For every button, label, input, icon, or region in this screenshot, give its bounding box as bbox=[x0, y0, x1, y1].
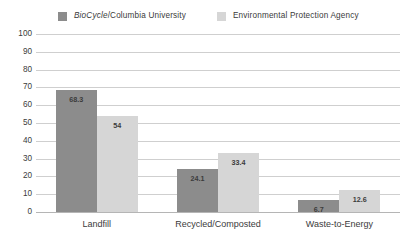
bar-chart: BioCycle/Columbia University Environment… bbox=[0, 0, 412, 238]
bar-value-label: 68.3 bbox=[56, 96, 97, 104]
y-axis-tick-label: 50 bbox=[0, 119, 32, 127]
gridline bbox=[36, 34, 400, 35]
chart-legend: BioCycle/Columbia University Environment… bbox=[0, 9, 412, 25]
gridline bbox=[36, 212, 400, 213]
legend-item-epa: Environmental Protection Agency bbox=[217, 9, 359, 23]
bar-value-label: 6.7 bbox=[298, 206, 339, 214]
y-axis-tick-label: 20 bbox=[0, 172, 32, 180]
bar-value-label: 33.4 bbox=[218, 159, 259, 167]
y-axis-tick-label: 0 bbox=[0, 208, 32, 216]
bar bbox=[56, 90, 97, 212]
bar bbox=[97, 116, 138, 212]
bar-value-label: 24.1 bbox=[177, 175, 218, 183]
y-axis-tick-label: 90 bbox=[0, 48, 32, 56]
legend-swatch-series2 bbox=[217, 12, 226, 21]
gridline bbox=[36, 70, 400, 71]
legend-label-series2: Environmental Protection Agency bbox=[233, 11, 359, 21]
y-axis-tick-label: 60 bbox=[0, 101, 32, 109]
gridline bbox=[36, 52, 400, 53]
y-axis-tick-label: 10 bbox=[0, 190, 32, 198]
legend-item-biocycle: BioCycle/Columbia University bbox=[58, 9, 186, 23]
plot-area: 68.35424.133.46.712.6 bbox=[36, 34, 400, 212]
gridline bbox=[36, 87, 400, 88]
y-axis-tick-label: 30 bbox=[0, 155, 32, 163]
legend-label-series1-rest: /Columbia University bbox=[108, 11, 186, 20]
x-axis-labels: LandfillRecycled/CompostedWaste-to-Energ… bbox=[36, 218, 400, 232]
y-axis-labels: 1009080706050403020100 bbox=[0, 34, 32, 212]
y-axis-tick-label: 70 bbox=[0, 83, 32, 91]
legend-swatch-series1 bbox=[58, 12, 67, 21]
legend-label-series1: BioCycle/Columbia University bbox=[74, 11, 186, 21]
x-axis-category-label: Recycled/Composted bbox=[157, 218, 278, 230]
legend-label-series1-italic: BioCycle bbox=[74, 11, 108, 20]
x-axis-category-label: Waste-to-Energy bbox=[279, 218, 400, 230]
y-axis-tick-label: 100 bbox=[0, 30, 32, 38]
bar-value-label: 12.6 bbox=[339, 196, 380, 204]
y-axis-tick-label: 80 bbox=[0, 66, 32, 74]
bar-value-label: 54 bbox=[97, 122, 138, 130]
x-axis-category-label: Landfill bbox=[36, 218, 157, 230]
y-axis-tick-label: 40 bbox=[0, 137, 32, 145]
